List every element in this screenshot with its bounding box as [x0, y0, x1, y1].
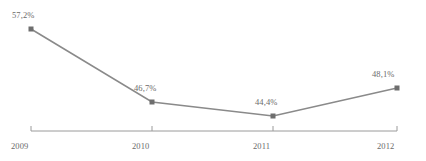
- data-label-2010: 46,7%: [134, 84, 156, 93]
- line-chart: 57,2% 46,7% 44,4% 48,1% 2009 2010 2011 2…: [0, 0, 426, 161]
- data-point-marker-2010[interactable]: [150, 100, 155, 105]
- data-series-line: [31, 29, 397, 116]
- chart-plot-area: [0, 0, 426, 161]
- x-axis-label-2010: 2010: [132, 142, 149, 151]
- x-axis-label-2011: 2011: [253, 142, 270, 151]
- data-point-marker-2009[interactable]: [29, 27, 34, 32]
- data-point-marker-2012[interactable]: [395, 86, 400, 91]
- x-axis-ticks: [31, 126, 397, 131]
- x-axis-label-2009: 2009: [11, 142, 28, 151]
- x-axis-label-2012: 2012: [377, 142, 394, 151]
- data-label-2012: 48,1%: [372, 70, 394, 79]
- data-label-2009: 57,2%: [12, 11, 34, 20]
- data-point-markers: [29, 27, 400, 119]
- data-point-marker-2011[interactable]: [271, 114, 276, 119]
- data-label-2011: 44,4%: [255, 98, 277, 107]
